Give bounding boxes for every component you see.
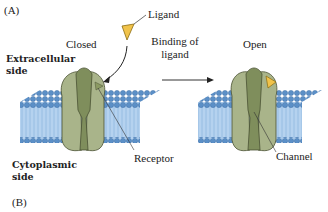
panel-b-label: (B)	[12, 196, 27, 208]
extracellular-label-line2: side	[6, 66, 28, 76]
channel-label: Channel	[276, 150, 313, 162]
binding-label-line2: ligand	[145, 48, 205, 60]
panel-a-label: (A)	[4, 4, 19, 16]
cytoplasmic-label-line2: side	[12, 172, 34, 182]
open-state-label: Open	[243, 38, 267, 50]
ligand-icon	[122, 15, 146, 40]
cytoplasmic-label-line1: Cytoplasmic	[12, 160, 77, 170]
receptor-label: Receptor	[134, 152, 174, 164]
binding-label-line1: Binding of	[145, 35, 205, 47]
receptor-channel-closed	[61, 68, 105, 151]
closed-state-label: Closed	[66, 38, 97, 50]
ligand-label: Ligand	[148, 8, 179, 20]
receptor-channel-open	[231, 68, 277, 151]
diagram-canvas	[0, 0, 328, 212]
extracellular-label-line1: Extracellular	[6, 54, 75, 64]
transition-arrow-icon	[162, 77, 214, 83]
binding-arrow-icon	[103, 46, 127, 83]
